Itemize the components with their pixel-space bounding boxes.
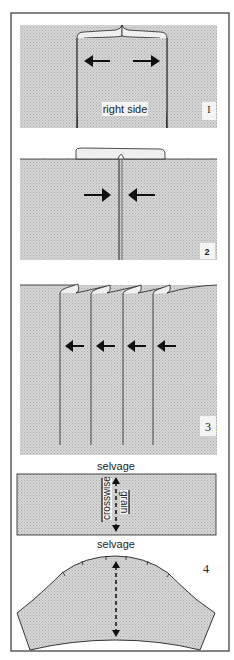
- selvage-bottom-label: selvage: [97, 538, 135, 550]
- seam-allowance-folded: [76, 148, 165, 159]
- sewing-diagram: right side I 2: [0, 0, 234, 660]
- panel-3: 3: [20, 284, 217, 455]
- step-number-3: 3: [205, 420, 211, 434]
- selvage-top-label: selvage: [97, 460, 135, 472]
- step-number-1: I: [207, 104, 210, 115]
- step-number-4: 4: [203, 562, 209, 576]
- fabric-background: [20, 285, 217, 455]
- crosswise-label: crosswise: [101, 476, 112, 520]
- step-number-2: 2: [204, 247, 209, 257]
- grain-label: grain: [119, 491, 130, 513]
- panel-2: 2: [20, 148, 217, 260]
- panel-1: right side I: [20, 25, 217, 128]
- panel-4: selvage crosswise grain selvage 4: [17, 460, 216, 650]
- right-side-label: right side: [103, 103, 148, 115]
